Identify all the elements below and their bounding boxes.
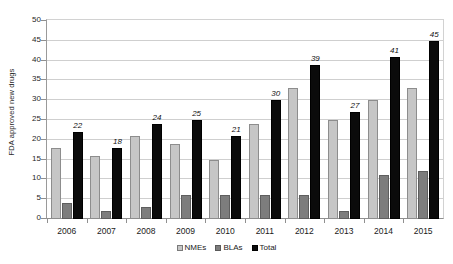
bar-group: 27 xyxy=(324,20,364,219)
x-tick-cell xyxy=(47,219,87,224)
bar-nmes-2009 xyxy=(170,144,180,219)
bar-group: 25 xyxy=(166,20,206,219)
bar-value-label: 25 xyxy=(192,109,201,118)
bar-value-label: 30 xyxy=(271,89,280,98)
x-axis-label-2011: 2011 xyxy=(245,226,285,239)
y-tick-label: 40 xyxy=(17,55,41,64)
bar-total-2014: 41 xyxy=(390,57,400,219)
legend-item-blas[interactable]: BLAs xyxy=(215,243,242,252)
x-tick-mark xyxy=(87,219,88,223)
bar-nmes-2010 xyxy=(209,160,219,219)
x-tick-mark xyxy=(245,219,246,223)
bar-blas-2010 xyxy=(220,195,230,219)
bar-blas-2006 xyxy=(62,203,72,219)
legend-label: BLAs xyxy=(223,243,242,252)
x-axis-label-2013: 2013 xyxy=(324,226,364,239)
bar-value-label: 24 xyxy=(153,113,162,122)
y-tick-label: 15 xyxy=(17,154,41,163)
bar-value-label: 18 xyxy=(113,137,122,146)
x-axis-label-2010: 2010 xyxy=(205,226,245,239)
x-axis-labels: 2006200720082009201020112012201320142015 xyxy=(47,226,443,239)
x-axis-label-2012: 2012 xyxy=(285,226,325,239)
bar-nmes-2011 xyxy=(249,124,259,219)
bar-blas-2007 xyxy=(101,211,111,219)
y-tick-label: 20 xyxy=(17,134,41,143)
legend-item-total[interactable]: Total xyxy=(252,243,277,252)
bar-total-2010: 21 xyxy=(231,136,241,219)
bar-total-2009: 25 xyxy=(192,120,202,219)
total-swatch xyxy=(252,245,258,251)
x-tick-mark xyxy=(205,219,206,223)
x-tick-mark xyxy=(285,219,286,223)
y-tick-label: 25 xyxy=(17,114,41,123)
bar-blas-2009 xyxy=(181,195,191,219)
bar-nmes-2013 xyxy=(328,120,338,219)
x-tick-mark xyxy=(166,219,167,223)
x-axis-label-2007: 2007 xyxy=(87,226,127,239)
bar-group: 18 xyxy=(87,20,127,219)
bar-value-label: 39 xyxy=(311,54,320,63)
x-tick-mark xyxy=(47,219,48,223)
x-tick-cell xyxy=(364,219,404,224)
bar-group: 21 xyxy=(205,20,245,219)
bar-group: 45 xyxy=(403,20,443,219)
bar-group: 39 xyxy=(285,20,325,219)
fda-approved-new-drugs-chart: FDA approved new drugs 50454035302520151… xyxy=(0,0,453,264)
bar-total-2007: 18 xyxy=(112,148,122,219)
bar-group: 41 xyxy=(364,20,404,219)
bar-blas-2015 xyxy=(418,171,428,219)
bar-value-label: 41 xyxy=(390,46,399,55)
x-tick-mark xyxy=(364,219,365,223)
x-tick-cell xyxy=(245,219,285,224)
bar-blas-2011 xyxy=(260,195,270,219)
y-tick-label: 45 xyxy=(17,35,41,44)
y-tick-label: 50 xyxy=(17,15,41,24)
bar-nmes-2008 xyxy=(130,136,140,219)
x-tick-cell xyxy=(87,219,127,224)
bar-nmes-2014 xyxy=(368,100,378,219)
bar-blas-2014 xyxy=(379,175,389,219)
y-tick-label: 30 xyxy=(17,94,41,103)
x-tick-cell xyxy=(285,219,325,224)
x-axis-label-2009: 2009 xyxy=(166,226,206,239)
bar-blas-2013 xyxy=(339,211,349,219)
x-axis-label-2014: 2014 xyxy=(364,226,404,239)
bar-group: 24 xyxy=(126,20,166,219)
y-tick-label: 10 xyxy=(17,173,41,182)
bar-blas-2008 xyxy=(141,207,151,219)
bar-nmes-2006 xyxy=(51,148,61,219)
bar-groups: 22182425213039274145 xyxy=(47,20,443,219)
x-tick-mark xyxy=(403,219,404,223)
x-axis-label-2008: 2008 xyxy=(126,226,166,239)
x-tick-cell xyxy=(166,219,206,224)
x-axis-label-2006: 2006 xyxy=(47,226,87,239)
bar-value-label: 22 xyxy=(73,121,82,130)
legend-item-nmes[interactable]: NMEs xyxy=(177,243,207,252)
bar-blas-2012 xyxy=(299,195,309,219)
bar-total-2012: 39 xyxy=(310,65,320,219)
y-tick-label: 5 xyxy=(17,193,41,202)
legend-label: Total xyxy=(260,243,277,252)
bar-group: 30 xyxy=(245,20,285,219)
y-tick-label: 35 xyxy=(17,74,41,83)
bar-value-label: 27 xyxy=(351,101,360,110)
bar-total-2006: 22 xyxy=(73,132,83,219)
x-tick-cell xyxy=(403,219,443,224)
bar-nmes-2012 xyxy=(288,88,298,219)
x-tick-mark xyxy=(126,219,127,223)
bar-nmes-2007 xyxy=(90,156,100,219)
bar-group: 22 xyxy=(47,20,87,219)
legend-label: NMEs xyxy=(185,243,207,252)
nmes-swatch xyxy=(177,245,183,251)
x-axis-label-2015: 2015 xyxy=(403,226,443,239)
bar-nmes-2015 xyxy=(407,88,417,219)
x-tick-mark xyxy=(324,219,325,223)
blas-swatch xyxy=(215,245,221,251)
y-tick-label: 0 xyxy=(17,213,41,222)
x-tick-cell xyxy=(126,219,166,224)
x-tick-cell xyxy=(324,219,364,224)
bar-total-2015: 45 xyxy=(429,41,439,219)
x-axis-ticks xyxy=(47,219,443,224)
bar-total-2011: 30 xyxy=(271,100,281,219)
bar-total-2008: 24 xyxy=(152,124,162,219)
